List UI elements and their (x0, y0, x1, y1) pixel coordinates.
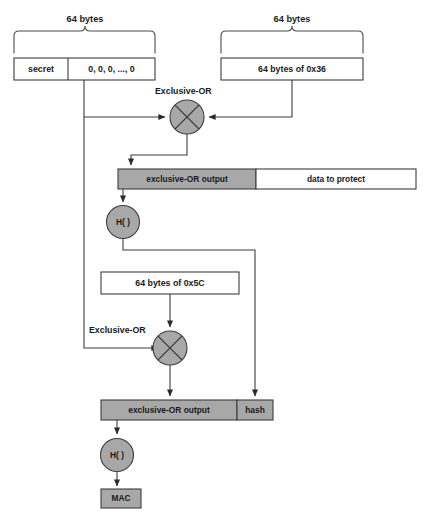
inner-bar-left-label: exclusive-OR output (146, 174, 228, 184)
xor-gate-top (170, 100, 204, 134)
opad-label: 64 bytes of 0x5C (135, 278, 205, 288)
ipad-label: 64 bytes of 0x36 (258, 64, 326, 74)
hmac-diagram: 64 bytes 64 bytes secret 0, 0, 0, ..., 0… (0, 0, 424, 521)
outer-bar-right-label: hash (245, 405, 265, 415)
hash-inner-label: H( ) (116, 217, 130, 227)
padding-label: 0, 0, 0, ..., 0 (88, 64, 135, 74)
brace-right (221, 26, 363, 53)
brace-left-label: 64 bytes (67, 14, 104, 24)
outer-bar-left-label: exclusive-OR output (128, 405, 210, 415)
diagram-canvas: 64 bytes 64 bytes secret 0, 0, 0, ..., 0… (0, 0, 424, 521)
xor-label-top: Exclusive-OR (155, 86, 212, 96)
wire-inner-hash-to-outer-bar (123, 239, 255, 397)
wire-xor1-to-inner-bar (131, 134, 187, 165)
wire-ipad-to-xor1 (209, 80, 292, 117)
hash-outer-label: H( ) (110, 450, 124, 460)
mac-label: MAC (111, 493, 130, 503)
wire-key-to-xor1 (84, 80, 165, 117)
secret-label: secret (28, 64, 54, 74)
inner-bar-right-label: data to protect (307, 174, 365, 184)
xor-label-bottom: Exclusive-OR (89, 325, 146, 335)
xor-gate-bottom (153, 331, 187, 365)
brace-left (14, 26, 155, 53)
brace-right-label: 64 bytes (274, 14, 311, 24)
